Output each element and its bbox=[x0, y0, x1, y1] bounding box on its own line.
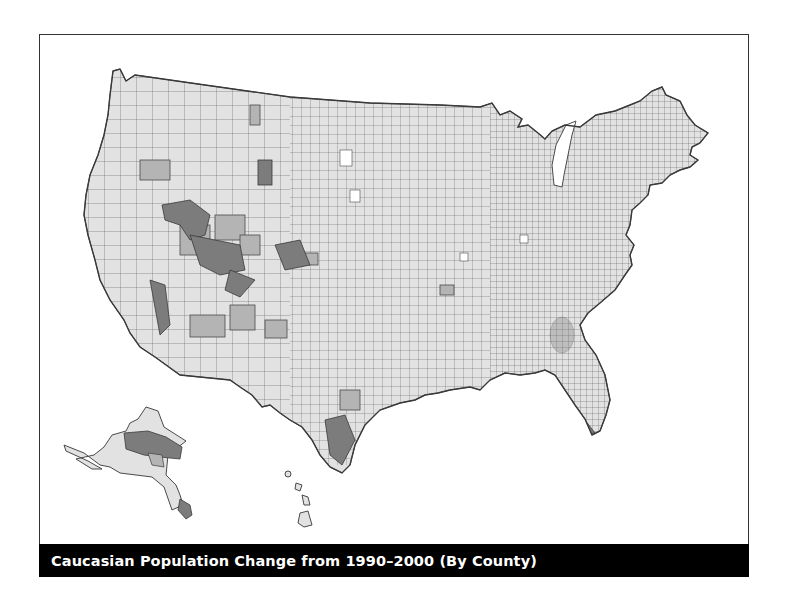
figure-frame: Caucasian Population Change from 1990–20… bbox=[39, 34, 749, 577]
alaska-region bbox=[64, 407, 192, 519]
figure-caption: Caucasian Population Change from 1990–20… bbox=[39, 544, 749, 577]
hawaii-region bbox=[285, 471, 312, 527]
us-county-map bbox=[40, 35, 748, 545]
conus-region bbox=[80, 65, 720, 473]
